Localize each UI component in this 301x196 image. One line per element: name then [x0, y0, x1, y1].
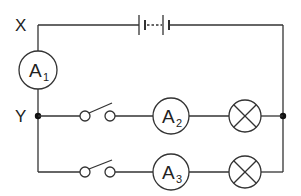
battery-icon — [139, 15, 169, 35]
ammeter-a2: A 2 — [153, 98, 189, 134]
lower-branch: A 3 — [38, 154, 283, 190]
lamp-icon — [229, 100, 261, 132]
svg-text:2: 2 — [176, 117, 182, 129]
upper-branch: A 2 — [38, 98, 283, 134]
svg-text:A: A — [162, 106, 175, 127]
svg-text:1: 1 — [43, 71, 49, 83]
ammeter-a1: A 1 — [19, 51, 57, 89]
circuit-diagram: A 1 X Y A 2 — [0, 0, 301, 196]
node-label-y: Y — [15, 107, 26, 126]
ammeter-a3: A 3 — [153, 154, 189, 190]
svg-text:A: A — [162, 162, 175, 183]
switch-icon — [80, 103, 115, 121]
lamp-icon — [229, 156, 261, 188]
node-label-x: X — [15, 16, 26, 35]
switch-icon — [80, 160, 115, 177]
svg-text:3: 3 — [176, 173, 182, 185]
svg-text:A: A — [29, 60, 42, 81]
